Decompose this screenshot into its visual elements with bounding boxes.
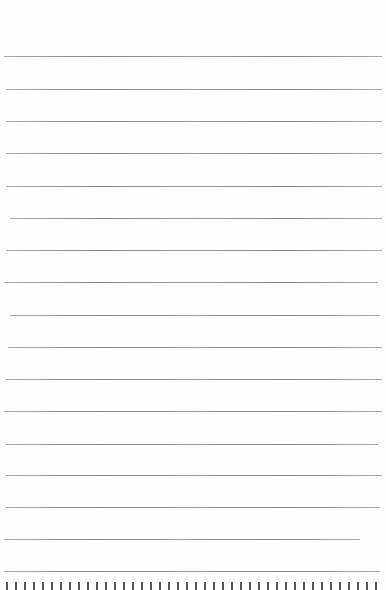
ruled-line [4, 571, 380, 572]
ruled-line [6, 444, 378, 445]
ruled-line [6, 153, 382, 154]
ruled-line [6, 121, 382, 122]
ruled-line [6, 89, 382, 90]
ruled-line [6, 507, 380, 508]
ruled-line [6, 250, 382, 251]
ruled-line [4, 539, 360, 540]
ruled-line [4, 411, 382, 412]
ruled-line [10, 218, 382, 219]
ruled-line [10, 315, 380, 316]
ruled-line [8, 347, 382, 348]
ruled-line [6, 475, 382, 476]
footer-text-truncated: (text cut off at bottom edge — illegible… [6, 580, 382, 590]
ruled-line [4, 282, 378, 283]
ruled-line [4, 56, 382, 57]
ruled-page [0, 0, 386, 590]
ruled-line [6, 186, 382, 187]
ruled-line [6, 379, 382, 380]
